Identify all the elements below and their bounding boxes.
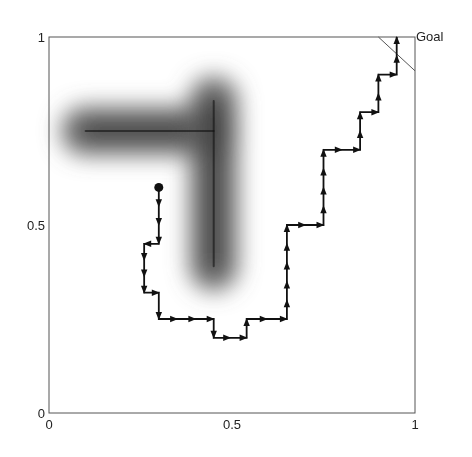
y-tick-label: 0 [38,406,45,421]
arrow-icon [284,243,290,251]
y-tick-label: 1 [38,30,45,45]
arrow-icon [320,168,326,176]
arrow-icon [284,280,290,288]
x-tick-label: 0.5 [223,417,241,432]
arrow-icon [284,299,290,307]
arrow-icon [141,269,147,277]
arrow-icon [357,130,363,138]
arrow-icon [284,262,290,270]
path-planning-chart: 00.5100.51 Goal [0,0,472,457]
y-tick-label: 0.5 [27,218,45,233]
arrow-icon [375,92,381,100]
arrow-icon [260,316,268,322]
arrow-icon [156,199,162,207]
robot-path [141,36,400,341]
arrow-icon [298,222,306,228]
annotations: Goal [416,29,444,44]
arrow-icon [170,316,178,322]
x-tick-label: 1 [411,417,418,432]
arrow-icon [156,218,162,226]
arrow-icon [320,205,326,213]
x-tick-label: 0 [45,417,52,432]
arrow-icon [320,186,326,194]
arrow-icon [223,335,231,341]
arrow-icon [335,147,343,153]
start-marker [154,183,163,192]
goal-label: Goal [416,29,444,44]
arrow-icon [188,316,196,322]
arrow-icon [141,253,147,261]
